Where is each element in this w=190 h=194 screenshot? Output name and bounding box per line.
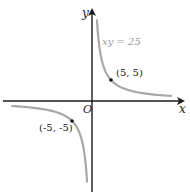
origin-label: O bbox=[83, 103, 92, 116]
point-neg5-neg5-label: (-5, -5) bbox=[39, 122, 73, 133]
curve-branch-first-quadrant bbox=[97, 20, 171, 96]
point-5-5-label: (5, 5) bbox=[116, 67, 143, 78]
point-5-5-marker bbox=[109, 78, 113, 82]
hyperbola-plot: y x O xy = 25 (5, 5) (-5, -5) bbox=[0, 0, 190, 194]
equation-label: xy = 25 bbox=[102, 36, 141, 47]
x-axis-label: x bbox=[179, 102, 186, 116]
curve-branch-third-quadrant bbox=[12, 106, 87, 182]
y-axis-label: y bbox=[81, 6, 89, 20]
